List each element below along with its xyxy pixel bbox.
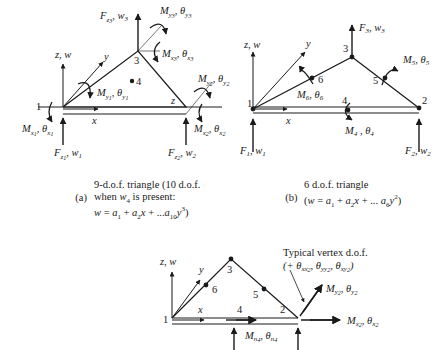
caption-a: (a) 9-d.o.f. triangle (10 d.o.f. when w4… (70, 179, 91, 229)
corner-z-label: z (170, 95, 175, 106)
moment-4-label: M4 , θ4 (344, 125, 374, 138)
axis-y-label-c: y (198, 264, 204, 275)
node-4-label-b: 4 (342, 95, 348, 106)
node-4-dot-b (346, 108, 351, 113)
node-6-dot-c (204, 283, 209, 288)
y-axis-arrow (63, 62, 103, 107)
axis-y-label-b: y (305, 38, 311, 49)
y-axis-arrow-c (172, 280, 200, 318)
moment-x2-label-c: Mx2, θx2 (346, 315, 378, 328)
moment-y3-label: My3, θy3 (159, 5, 191, 19)
moment-n4-label: Mn4, θn4 (244, 330, 277, 343)
caption-b-line2: (w = a1 + a2x + ... a6y2) (304, 191, 401, 211)
moment-y1-icon (78, 83, 90, 98)
caption-a-line3: w = a1 + a2x + ...a10y3) (94, 203, 189, 223)
axis-z-label-b: z, w (243, 39, 260, 50)
moment-6-label: M6, θ6 (296, 89, 324, 102)
force-z1-label: Fz1, w1 (53, 147, 82, 161)
node-4-label-c: 4 (237, 304, 243, 315)
node-4-dot (130, 79, 134, 83)
force-3-label: F3, w3 (358, 22, 385, 35)
moment-x3-label: Mx3, θx3 (161, 48, 193, 62)
annotation-line1: Typical vertex d.o.f. (283, 247, 368, 258)
node-6-label-c: 6 (212, 284, 217, 295)
caption-a-tag: (a) (75, 192, 87, 203)
moment-x1-label: Mx1, θx1 (21, 123, 53, 137)
force-1-label: F1, w1 (239, 145, 266, 158)
force-z2-label: Fz2, w2 (167, 147, 196, 161)
moment-x2-label: Mx2, θx2 (193, 123, 225, 137)
moment-y2-label-c: My2, θy2 (325, 283, 357, 296)
y-axis-arrow-b (253, 52, 305, 109)
panel-b-6dof-triangle (253, 25, 419, 152)
axis-z-label-c: z, w (159, 256, 176, 267)
node-3-label-b: 3 (343, 43, 348, 54)
node-1-label-c: 1 (163, 314, 168, 325)
node-6-dot (310, 76, 315, 81)
node-4-label: 4 (136, 76, 142, 87)
node-3-label-c: 3 (227, 264, 232, 275)
moment-5-label: M5, θ5 (402, 54, 430, 67)
axis-x-label-c: x (197, 304, 203, 315)
node-1-label-b: 1 (247, 98, 252, 109)
caption-b-tag: (b) (285, 192, 297, 203)
node-2-label-b: 2 (422, 95, 427, 106)
plate-element-diagram: z, w y x z 1 3 4 Fz3, w3 My3, θy3 Mx3, θ… (0, 0, 448, 350)
moment-x3-icon (154, 42, 160, 62)
moment-x1-icon (49, 102, 52, 122)
node-5-dot-c (262, 287, 267, 292)
axis-y-label: y (103, 51, 109, 62)
node-2-label-c: 2 (280, 304, 285, 315)
node-5-label-c: 5 (253, 289, 258, 300)
axis-x-label-b: x (285, 115, 291, 126)
axis-x-label: x (91, 115, 97, 126)
caption-a-line1: 9-d.o.f. triangle (10 d.o.f. (94, 179, 200, 192)
moment-y2-icon (194, 88, 210, 98)
node-1-label: 1 (36, 101, 41, 112)
caption-b-line1: 6 d.o.f. triangle (304, 179, 368, 192)
force-2-label: F2, w2 (404, 145, 431, 158)
node-5-label-b: 5 (373, 75, 378, 86)
moment-y2-label: My2, θy2 (197, 73, 229, 87)
caption-b: (b) 6 d.o.f. triangle (w = a1 + a2x + ..… (280, 179, 298, 229)
node-5-dot (383, 76, 388, 81)
node-3-label: 3 (134, 55, 139, 66)
annotation-pointer (290, 270, 304, 302)
annotation-line2: (+ θxx2, θyy2, θxy2) (283, 260, 354, 273)
node-6-label-b: 6 (318, 74, 323, 85)
axis-z-label: z, w (54, 49, 71, 60)
triangle-edges-b (253, 57, 419, 109)
moment-y1-label: My1, θy1 (96, 87, 128, 101)
force-z3-label: Fz3, w3 (99, 10, 128, 24)
